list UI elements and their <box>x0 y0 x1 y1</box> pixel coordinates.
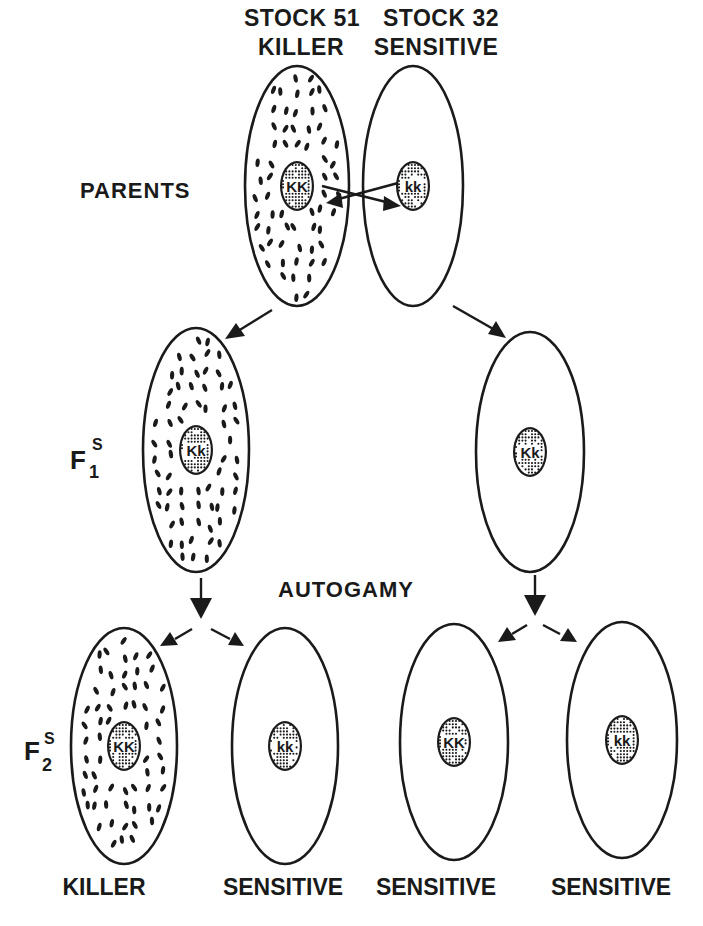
svg-text:S: S <box>92 436 103 453</box>
genotype-label: Kk <box>520 444 540 461</box>
inheritance-diagram: STOCK 51 KILLER STOCK 32 SENSITIVE PAREN… <box>0 0 703 926</box>
arrowhead-icon <box>190 598 212 619</box>
row-label-f1: F 1 S <box>70 436 103 482</box>
genotype-label: kk <box>405 178 422 195</box>
genotype-label: kk <box>277 738 294 755</box>
svg-text:1: 1 <box>89 462 99 482</box>
nucleus: kk <box>268 721 302 771</box>
nucleus: KK <box>107 721 141 771</box>
cell-f2-3: KK <box>400 624 508 860</box>
arrowhead-icon <box>560 628 577 642</box>
cell-f2-4: kk <box>567 622 677 858</box>
arrowhead-icon <box>524 595 546 616</box>
cell-f2-2: kk <box>232 628 338 864</box>
arrowhead-icon <box>488 321 506 338</box>
footer-label-1: KILLER <box>62 874 145 900</box>
svg-text:F: F <box>24 736 40 766</box>
arrow-split-left-a <box>160 629 192 646</box>
cell-f1-left: Kk <box>143 328 249 572</box>
genotype-label: KK <box>286 178 308 195</box>
header-right-type: SENSITIVE <box>374 34 499 60</box>
header-right-stock: STOCK 32 <box>383 5 499 31</box>
nucleus: Kk <box>179 425 213 475</box>
genotype-label: KK <box>443 734 465 751</box>
header-left-stock: STOCK 51 <box>244 5 360 31</box>
svg-text:S: S <box>44 730 55 747</box>
genotype-label: kk <box>614 732 631 749</box>
header-left-type: KILLER <box>258 34 344 60</box>
cell-f1-right: Kk <box>476 332 584 572</box>
cell-parent-killer: KK <box>245 66 349 306</box>
footer-label-3: SENSITIVE <box>376 874 496 900</box>
nucleus: Kk <box>513 427 547 477</box>
arrow-split-right-a <box>498 625 527 642</box>
row-label-parents: PARENTS <box>80 178 191 203</box>
genotype-label: KK <box>113 738 135 755</box>
arrow-parent-to-f1-left <box>225 310 272 339</box>
arrow-f1-right-down <box>524 575 546 616</box>
arrowhead-icon <box>228 632 244 646</box>
row-label-autogamy: AUTOGAMY <box>278 577 414 602</box>
cell-f2-1: KK <box>71 628 177 864</box>
arrow-split-left-b <box>211 629 244 646</box>
nucleus: KK <box>280 161 314 211</box>
arrow-split-right-b <box>543 625 577 642</box>
svg-text:F: F <box>70 445 86 475</box>
nucleus: kk <box>605 715 639 765</box>
arrowhead-icon <box>225 323 245 339</box>
genotype-label: Kk <box>186 442 206 459</box>
nucleus: kk <box>396 161 430 211</box>
footer-label-2: SENSITIVE <box>223 874 343 900</box>
footer-label-4: SENSITIVE <box>551 874 671 900</box>
row-label-f2: F 2 S <box>24 730 55 775</box>
cell-parent-sensitive: kk <box>363 66 463 306</box>
svg-text:2: 2 <box>42 755 52 775</box>
arrow-f1-left-down <box>190 578 212 619</box>
arrow-parent-to-f1-right <box>453 306 506 338</box>
nucleus: KK <box>437 717 471 767</box>
